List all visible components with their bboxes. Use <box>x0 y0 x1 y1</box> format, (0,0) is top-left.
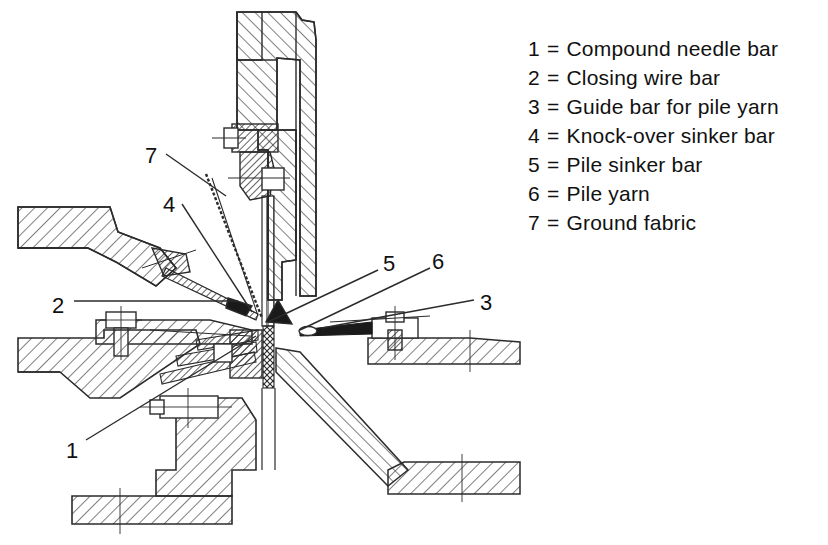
legend-key: 4 <box>528 121 541 150</box>
legend-equals: = <box>541 92 566 121</box>
legend-key: 2 <box>528 63 541 92</box>
callout-7: 7 <box>145 145 157 167</box>
legend-key: 5 <box>528 150 541 179</box>
callout-2: 2 <box>52 295 64 317</box>
pile-yarn-guide-needle <box>299 322 372 336</box>
take-down-base-bar <box>388 454 520 502</box>
needle-channel-column <box>262 196 274 326</box>
callout-3: 3 <box>480 292 492 314</box>
legend-label: Pile yarn <box>566 179 650 208</box>
knock-over-sinker-support-block <box>18 207 176 286</box>
legend-label: Knock-over sinker bar <box>566 121 774 150</box>
legend: 1 = Compound needle bar 2 = Closing wire… <box>528 34 824 237</box>
legend-label: Compound needle bar <box>566 34 778 63</box>
legend-label: Closing wire bar <box>566 63 720 92</box>
legend-label: Ground fabric <box>566 208 696 237</box>
legend-equals: = <box>541 208 566 237</box>
leader-line-5 <box>268 270 378 322</box>
legend-label: Guide bar for pile yarn <box>566 92 778 121</box>
legend-key: 1 <box>528 34 541 63</box>
legend-equals: = <box>541 121 566 150</box>
legend-key: 7 <box>528 208 541 237</box>
fabric-take-down-arm <box>276 348 408 486</box>
legend-row: 3 = Guide bar for pile yarn <box>528 92 824 121</box>
legend-row: 2 = Closing wire bar <box>528 63 824 92</box>
callout-6: 6 <box>432 251 444 273</box>
callout-5: 5 <box>383 253 395 275</box>
callout-4: 4 <box>163 194 175 216</box>
legend-equals: = <box>541 34 566 63</box>
needle-bar-clamp-upper <box>212 124 278 152</box>
legend-key: 3 <box>528 92 541 121</box>
leader-line-7 <box>166 154 226 196</box>
ground-fabric-strip <box>262 326 275 470</box>
legend-row: 5 = Pile sinker bar <box>528 150 824 179</box>
legend-equals: = <box>541 150 566 179</box>
legend-equals: = <box>541 179 566 208</box>
figure-canvas: 7 4 2 1 5 6 3 1 = Compound needle bar 2 … <box>0 0 828 545</box>
legend-key: 6 <box>528 179 541 208</box>
machine-frame-left-lower <box>18 330 200 398</box>
legend-label: Pile sinker bar <box>566 150 702 179</box>
callout-1: 1 <box>66 440 78 462</box>
legend-row: 1 = Compound needle bar <box>528 34 824 63</box>
legend-row: 6 = Pile yarn <box>528 179 824 208</box>
legend-row: 7 = Ground fabric <box>528 208 824 237</box>
legend-equals: = <box>541 63 566 92</box>
legend-row: 4 = Knock-over sinker bar <box>528 121 824 150</box>
